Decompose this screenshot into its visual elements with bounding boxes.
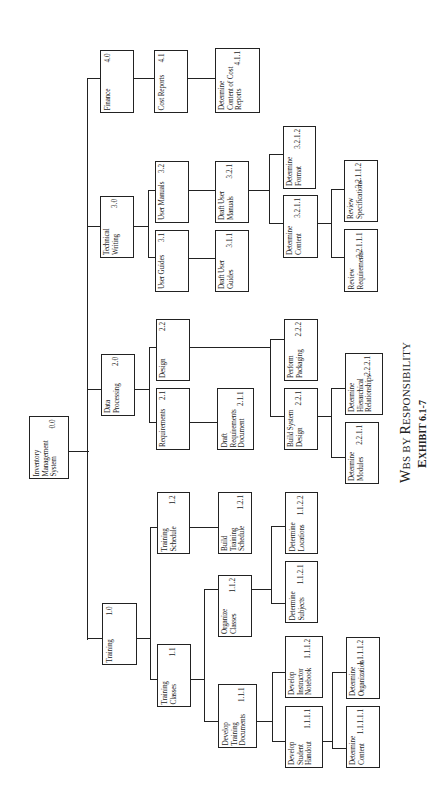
wbs-node-determine-hierarchical-relationships: Determine Hierarchical Relationships2.2.… xyxy=(345,353,383,415)
node-content: Build System Design2.2.1 xyxy=(284,388,318,450)
node-code: 3.2.1.1.1 xyxy=(355,232,363,257)
node-label: Develop Student Handout xyxy=(288,741,314,765)
wbs-node-build-training-schedule: Build Training Schedule1.2.1 xyxy=(218,492,252,554)
connector xyxy=(190,347,271,348)
node-code: 2.1 xyxy=(159,391,167,400)
node-content: Training1.0 xyxy=(102,603,137,665)
node-label: User Guides xyxy=(158,255,167,289)
node-code: 2.0 xyxy=(112,357,120,366)
wbs-node-draft-user-guides: Draft User Guides3.1.1 xyxy=(215,230,249,292)
connector xyxy=(318,416,332,417)
node-content: Determine Modules2.2.1.1 xyxy=(345,422,379,484)
node-content: Build Training Schedule1.2.1 xyxy=(218,492,252,554)
connector xyxy=(332,672,347,673)
node-label: Training Schedule xyxy=(160,526,177,551)
node-label: Draft Requirements Document xyxy=(220,409,246,447)
connector xyxy=(148,257,156,258)
connector xyxy=(150,679,158,680)
wbs-node-determine-modules: Determine Modules2.2.1.1 xyxy=(345,422,379,484)
wbs-node-training-schedule: Training Schedule1.2 xyxy=(157,492,190,554)
node-content: User Manuals3.2 xyxy=(155,161,189,223)
wbs-node-develop-training-documents: Develop Training Documents1.1.1 xyxy=(218,684,257,748)
connector xyxy=(332,672,333,749)
node-content: Draft User Manuals3.2.1 xyxy=(215,161,249,223)
node-label: Develop Training Documents xyxy=(221,714,247,745)
connector xyxy=(331,388,346,389)
node-label: Build Training Schedule xyxy=(221,526,247,551)
connector xyxy=(331,457,346,458)
wbs-node-cost-reports: Cost Reports4.1 xyxy=(154,50,188,113)
node-code: 1.2 xyxy=(168,495,176,504)
connector xyxy=(272,741,286,742)
wbs-node-review-requirements: Review Requirements3.2.1.1.1 xyxy=(344,229,378,292)
node-code: 3.2.1.1.2 xyxy=(355,163,363,188)
connector xyxy=(137,638,151,639)
wbs-node-develop-instructor-notebook: Develop Instructor Notebook1.1.1.2 xyxy=(285,636,323,698)
node-code: 3.0 xyxy=(111,199,119,208)
connector xyxy=(149,347,150,423)
connector xyxy=(269,223,284,224)
wbs-node-data-processing: Data Processing2.0 xyxy=(101,354,135,416)
exhibit-title: WBS BY RESPONSIBILITY xyxy=(398,342,414,483)
connector xyxy=(331,388,332,458)
node-label: Draft User Guides xyxy=(218,260,235,289)
connector xyxy=(270,339,285,340)
wbs-node-training: Training1.0 xyxy=(102,603,137,665)
node-code: 1.1.1.1.2 xyxy=(357,640,365,665)
connector xyxy=(331,189,332,258)
connector xyxy=(190,422,218,423)
wbs-node-determine-content-3-2-1-1: Determine Content3.2.1.1 xyxy=(283,195,318,258)
wbs-node-determine-content-1-1-1-1-1: Determine Content1.1.1.1.1 xyxy=(346,706,380,768)
node-content: Organize Classes1.1.2 xyxy=(218,575,252,637)
node-content: Determine Content3.2.1.1 xyxy=(283,195,318,258)
node-content: Draft User Guides3.1.1 xyxy=(215,230,249,292)
node-code: 1.1.1.1 xyxy=(304,709,312,729)
node-label: Training xyxy=(105,639,114,662)
connector xyxy=(189,258,216,259)
node-label: Draft User Manuals xyxy=(218,191,235,220)
node-content: Training Classes1.1 xyxy=(157,644,191,707)
node-code: 1.1.2.1 xyxy=(296,564,304,584)
wbs-node-build-system-design: Build System Design2.2.1 xyxy=(284,388,318,450)
node-code: 1.1.1.2 xyxy=(304,639,312,659)
node-label: Finance xyxy=(103,88,112,110)
connector xyxy=(269,154,284,155)
node-code: 4.1.1 xyxy=(234,51,242,65)
node-content: Training Schedule1.2 xyxy=(157,492,190,554)
node-label: User Manuals xyxy=(158,182,167,220)
node-content: Review Specifications3.2.1.1.2 xyxy=(344,160,378,222)
connector xyxy=(204,721,219,722)
connector xyxy=(190,527,219,528)
connector xyxy=(87,226,101,227)
wbs-node-determine-subjects: Determine Subjects1.1.2.1 xyxy=(285,561,318,623)
connector xyxy=(270,339,271,417)
connector xyxy=(271,526,286,527)
node-label: Inventory Management System xyxy=(32,440,58,476)
node-code: 2.2.1 xyxy=(295,391,303,405)
node-code: 0.0 xyxy=(48,419,56,428)
wbs-node-finance: Finance4.0 xyxy=(100,50,134,113)
node-content: Develop Student Handout1.1.1.1 xyxy=(285,706,323,768)
wbs-node-determine-organization: Determine Organization1.1.1.1.2 xyxy=(346,637,380,699)
node-code: 2.2 xyxy=(159,322,167,331)
node-label: Cost Reports xyxy=(157,74,166,110)
node-label: Develop Instructor Notebook xyxy=(288,668,314,695)
connector xyxy=(148,190,156,191)
connector xyxy=(204,589,219,590)
connector xyxy=(150,527,151,680)
wbs-node-training-classes: Training Classes1.1 xyxy=(157,644,191,707)
node-code: 3.2 xyxy=(158,164,166,173)
wbs-node-user-guides: User Guides3.1 xyxy=(155,230,189,292)
connector xyxy=(134,226,149,227)
connector xyxy=(269,154,270,224)
connector xyxy=(272,672,273,742)
node-content: Determine Hierarchical Relationships2.2.… xyxy=(345,353,383,415)
wbs-node-design: Design2.2 xyxy=(156,319,190,381)
node-content: Review Requirements3.2.1.1.1 xyxy=(344,229,378,292)
wbs-diagram: Inventory Management System0.0 Training1… xyxy=(0,0,441,812)
node-code: 3.1 xyxy=(158,233,166,242)
node-code: 1.0 xyxy=(105,606,113,615)
node-code: 1.1.2.2 xyxy=(296,495,304,515)
wbs-node-root: Inventory Management System0.0 xyxy=(29,416,69,479)
connector xyxy=(87,78,101,79)
